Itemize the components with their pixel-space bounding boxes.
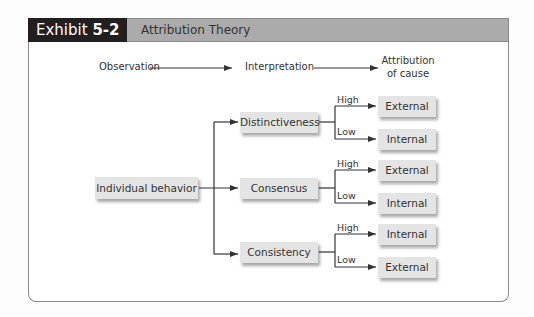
- distinctiveness-box: Distinctiveness: [240, 112, 318, 133]
- result-box-external: External: [378, 160, 436, 181]
- branch-label-high: High: [337, 222, 359, 233]
- result-box-internal: Internal: [378, 193, 436, 214]
- consistency-box: Consistency: [240, 242, 318, 263]
- branch-label-high: High: [337, 94, 359, 105]
- branch-label-low: Low: [337, 254, 356, 265]
- result-box-internal: Internal: [378, 129, 436, 150]
- branch-label-low: Low: [337, 126, 356, 137]
- branch-label-low: Low: [337, 190, 356, 201]
- result-box-external: External: [378, 96, 436, 117]
- connector-lines: [0, 0, 534, 317]
- consensus-box: Consensus: [240, 178, 318, 199]
- stage-attribution-line2: of cause: [380, 67, 436, 80]
- result-box-internal: Internal: [378, 224, 436, 245]
- individual-behavior-box: Individual behavior: [95, 177, 198, 199]
- stage-observation: Observation: [99, 61, 160, 72]
- branch-label-high: High: [337, 158, 359, 169]
- stage-attribution: Attribution of cause: [380, 54, 436, 80]
- stage-attribution-line1: Attribution: [380, 54, 436, 67]
- stage-interpretation: Interpretation: [245, 61, 314, 72]
- result-box-external: External: [378, 257, 436, 278]
